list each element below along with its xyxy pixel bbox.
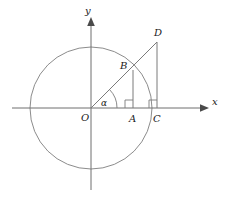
label-origin: O (81, 112, 89, 123)
label-point-b: B (119, 60, 127, 71)
geometry-figure: O α B A C D x y (0, 0, 226, 199)
label-x-axis: x (212, 96, 218, 107)
label-point-d: D (153, 27, 162, 38)
right-angle-mark-a (125, 100, 133, 108)
right-angle-mark-c (149, 100, 157, 108)
label-point-a: A (128, 113, 136, 124)
label-angle-alpha: α (101, 98, 107, 108)
y-axis-arrow (87, 17, 95, 26)
figure-canvas: O α B A C D x y (0, 0, 226, 199)
label-y-axis: y (84, 5, 91, 16)
label-point-c: C (153, 113, 161, 124)
angle-alpha-arc (110, 90, 117, 108)
x-axis-arrow (200, 104, 209, 112)
